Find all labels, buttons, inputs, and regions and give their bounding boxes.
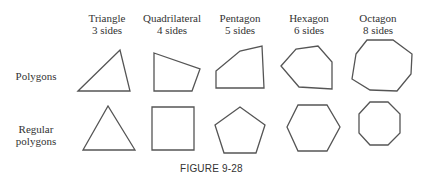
irregular-pentagon-shape [216,46,264,88]
regular-pentagon-shape [215,107,265,153]
irregular-quadrilateral-shape [154,53,200,91]
irregular-octagon-shape [352,40,412,91]
regular-triangle-shape [83,106,135,150]
irregular-triangle-shape [78,50,130,91]
irregular-hexagon-shape [281,46,332,89]
regular-octagon-shape [359,102,400,145]
regular-hexagon-shape [287,105,340,151]
polygon-grid [0,0,423,181]
figure-caption: FIGURE 9-28 [0,163,423,174]
regular-square-shape [152,107,194,150]
